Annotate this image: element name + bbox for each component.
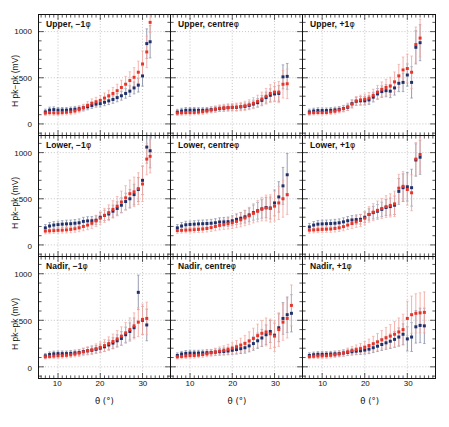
panel-title-phi: φ: [349, 20, 354, 29]
panel-title: Nadir, centreφ: [178, 261, 236, 271]
x-axis-title: θ (°): [360, 396, 379, 406]
y-axis-title: H pk−pk (mV): [10, 55, 20, 107]
panel-title-phi: φ: [234, 20, 239, 29]
x-tick-label: 20: [361, 379, 370, 388]
panel-nadir-plus1: Nadir, +1φ: [303, 257, 435, 378]
x-tick-label: 10: [318, 379, 327, 388]
panel-title-sub: −1: [70, 261, 82, 271]
panel-title-sub: centre: [205, 19, 234, 29]
gridlines: [303, 15, 435, 135]
figure-root: 05001000H pk−pk (mV)05001000H pk−pk (mV)…: [0, 0, 449, 427]
plot-canvas: [171, 257, 302, 378]
gridlines: [303, 257, 435, 378]
errorbars-red: [44, 140, 151, 234]
panel-title-phi: φ: [86, 141, 91, 150]
panel-title-main: Lower,: [46, 140, 74, 150]
panel-lower-centre: Lower, centreφ: [171, 136, 303, 257]
panel-title: Nadir, +1φ: [310, 261, 352, 271]
panel-upper-centre: Upper, centreφ: [171, 15, 303, 136]
gridlines: [303, 136, 435, 256]
errorbars-navy: [44, 136, 151, 231]
panel-title-sub: centre: [206, 140, 235, 150]
panel-upper-plus1: Upper, +1φ: [303, 15, 435, 136]
errorbars-red: [308, 292, 426, 359]
tick-marks: [303, 257, 435, 378]
panel-grid: Upper, −1φUpper, centreφUpper, +1φLower,…: [38, 14, 436, 379]
datapoints-red: [44, 21, 152, 115]
panel-title-main: Upper,: [178, 19, 205, 29]
panel-title-sub: −1: [74, 140, 86, 150]
x-tick-label: 20: [228, 379, 237, 388]
panel-title: Lower, centreφ: [178, 140, 240, 150]
gridlines: [171, 136, 302, 256]
panel-title-main: Upper,: [310, 19, 337, 29]
y-tick-label: 0: [28, 120, 32, 129]
panel-title-sub: +1: [334, 261, 346, 271]
panel-nadir-minus1: Nadir, −1φ: [39, 257, 171, 378]
tick-marks: [303, 136, 435, 256]
panel-title-phi: φ: [347, 262, 352, 271]
datapoints-navy: [44, 146, 152, 230]
panel-title-sub: −1: [73, 19, 85, 29]
plot-canvas: [39, 15, 170, 135]
y-tick-label: 0: [28, 242, 32, 251]
panel-title: Lower, −1φ: [46, 140, 91, 150]
x-tick-label: 30: [404, 379, 413, 388]
panel-title-main: Lower,: [178, 140, 206, 150]
panel-upper-minus1: Upper, −1φ: [39, 15, 171, 136]
plot-canvas: [303, 15, 435, 135]
panel-title-sub: +1: [338, 140, 350, 150]
plot-canvas: [171, 15, 302, 135]
gridlines: [39, 257, 170, 378]
panel-title-main: Lower,: [310, 140, 338, 150]
plot-canvas: [39, 136, 170, 256]
panel-title: Upper, +1φ: [310, 19, 355, 29]
y-tick-label: 1000: [14, 270, 32, 279]
errorbars-navy: [308, 308, 426, 358]
x-tick-label: 10: [53, 379, 62, 388]
errorbars-red: [44, 15, 151, 115]
panel-title-main: Upper,: [46, 19, 73, 29]
plot-canvas: [171, 136, 302, 256]
panel-title: Upper, centreφ: [178, 19, 239, 29]
panel-nadir-centre: Nadir, centreφ: [171, 257, 303, 378]
panel-title-main: Nadir,: [178, 261, 202, 271]
errorbars-red: [176, 285, 293, 359]
panel-lower-minus1: Lower, −1φ: [39, 136, 171, 257]
panel-title: Nadir, −1φ: [46, 261, 88, 271]
x-tick-label: 30: [271, 379, 280, 388]
y-tick-label: 0: [28, 363, 32, 372]
tick-marks: [39, 257, 170, 378]
x-tick-label: 30: [138, 379, 147, 388]
x-axis: 102030102030102030: [38, 379, 436, 391]
panel-title-main: Nadir,: [310, 261, 334, 271]
errorbars-navy: [176, 295, 293, 358]
tick-marks: [303, 15, 435, 135]
tick-marks: [171, 136, 302, 256]
y-axis-title: H pk−pk (mV): [10, 298, 20, 350]
x-tick-label: 20: [96, 379, 105, 388]
panel-title-phi: φ: [231, 262, 236, 271]
panel-title-main: Nadir,: [46, 261, 70, 271]
panel-title-phi: φ: [350, 141, 355, 150]
x-axis-title: θ (°): [228, 396, 247, 406]
datapoints-navy: [308, 324, 426, 357]
panel-title-sub: centre: [202, 261, 231, 271]
plot-canvas: [303, 136, 435, 256]
panel-title-sub: +1: [337, 19, 349, 29]
y-tick-label: 1000: [14, 26, 32, 35]
panel-title-phi: φ: [85, 20, 90, 29]
plot-canvas: [39, 257, 170, 378]
y-axis-title: H pk−pk (mV): [10, 176, 20, 228]
y-tick-label: 500: [19, 316, 32, 325]
panel-title: Lower, +1φ: [310, 140, 355, 150]
y-tick-label: 500: [19, 195, 32, 204]
y-tick-label: 1000: [14, 148, 32, 157]
x-axis-title: θ (°): [95, 396, 114, 406]
gridlines: [171, 15, 302, 135]
panel-lower-plus1: Lower, +1φ: [303, 136, 435, 257]
panel-title-phi: φ: [83, 262, 88, 271]
panel-title: Upper, −1φ: [46, 19, 91, 29]
y-axis: 05001000H pk−pk (mV)05001000H pk−pk (mV)…: [0, 14, 36, 379]
plot-canvas: [303, 257, 435, 378]
